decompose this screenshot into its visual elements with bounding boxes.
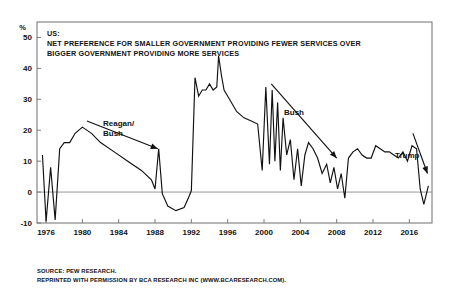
footer-source-line: SOURCE: PEW RESEARCH. [37, 268, 117, 274]
y-tick-label: 10 [23, 157, 32, 166]
y-tick-label: 0 [28, 188, 33, 197]
x-tick-label: 2016 [400, 228, 418, 237]
x-tick-label: 1992 [182, 228, 200, 237]
x-tick-label: 1980 [74, 228, 92, 237]
y-tick-label: 40 [23, 64, 32, 73]
x-tick-label: 2004 [291, 228, 309, 237]
y-tick-label: -10 [20, 219, 32, 228]
x-tick-label: 1996 [219, 228, 237, 237]
x-tick-label: 2000 [255, 228, 273, 237]
y-tick-label: 20 [23, 126, 32, 135]
annotation-label-reagan: Reagan/ [103, 119, 135, 128]
chart-figure: -1001020304050 1976198019841988199219962… [0, 0, 450, 296]
annotation-label-reagan-second: Bush [103, 129, 123, 138]
chart-canvas: -1001020304050 1976198019841988199219962… [0, 0, 450, 296]
y-tick-label: 50 [23, 33, 32, 42]
y-tick-label: 30 [23, 95, 32, 104]
x-tick-label: 2012 [364, 228, 382, 237]
x-tick-label: 2008 [328, 228, 346, 237]
x-tick-label: 1988 [146, 228, 164, 237]
chart-title-line-3: BIGGER GOVERNMENT PROVIDING MORE SERVICE… [47, 49, 239, 58]
x-tick-label: 1976 [37, 228, 55, 237]
x-tick-label: 1984 [110, 228, 128, 237]
annotation-label-bush: Bush [284, 108, 304, 117]
chart-title-line-2: NET PREFERENCE FOR SMALLER GOVERNMENT PR… [47, 39, 361, 48]
annotation-label-trump: Trump [395, 151, 420, 160]
y-axis-unit-label: % [19, 23, 26, 32]
footer-permission-line: REPRINTED WITH PERMISSION BY BCA RESEARC… [37, 277, 286, 283]
chart-title-line-1: US: [47, 29, 60, 38]
